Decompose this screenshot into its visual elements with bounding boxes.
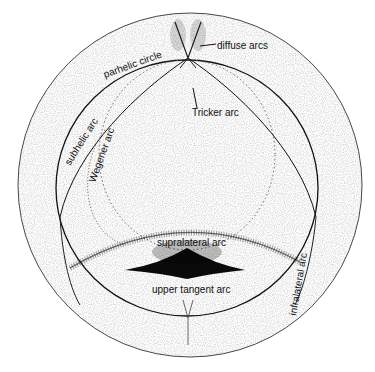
label-upper-tangent-arc: upper tangent arc: [152, 284, 230, 295]
halo-diagram: diffuse arcs Tricker arc parhelic circle…: [0, 0, 375, 372]
label-diffuse-arcs: diffuse arcs: [217, 40, 268, 51]
label-tricker-arc: Tricker arc: [192, 107, 239, 118]
label-supralateral-arc: supralateral arc: [157, 237, 226, 248]
